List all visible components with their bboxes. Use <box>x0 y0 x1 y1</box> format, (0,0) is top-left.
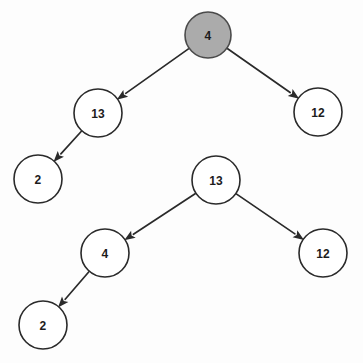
tree-node[interactable]: 4 <box>185 12 231 58</box>
node-circle[interactable] <box>294 88 342 136</box>
tree-edge <box>53 132 81 162</box>
node-circle-highlighted[interactable] <box>185 12 231 58</box>
tree-edge <box>58 272 89 308</box>
node-circle[interactable] <box>74 89 122 137</box>
nodes-layer: 413122134122 <box>14 12 347 349</box>
tree-node[interactable]: 12 <box>294 88 342 136</box>
tree-node[interactable]: 12 <box>299 229 347 277</box>
tree-node[interactable]: 2 <box>14 155 62 203</box>
tree-node[interactable]: 4 <box>81 229 129 277</box>
node-circle[interactable] <box>14 155 62 203</box>
tree-diagram-canvas: 413122134122 <box>0 0 363 363</box>
tree-node[interactable]: 13 <box>192 156 240 204</box>
edge-arrowhead-icon <box>124 231 136 241</box>
tree-edge <box>228 49 300 99</box>
edge-arrowhead-icon <box>288 89 299 99</box>
tree-diagram-svg: 413122134122 <box>0 0 363 363</box>
node-circle[interactable] <box>81 229 129 277</box>
edge-arrowhead-icon <box>117 90 128 100</box>
tree-edge <box>237 194 304 240</box>
tree-node[interactable]: 13 <box>74 89 122 137</box>
tree-edge <box>124 194 195 241</box>
edge-arrowhead-icon <box>293 230 304 240</box>
node-circle[interactable] <box>299 229 347 277</box>
tree-edge <box>117 49 189 100</box>
node-circle[interactable] <box>19 301 67 349</box>
tree-node[interactable]: 2 <box>19 301 67 349</box>
node-circle[interactable] <box>192 156 240 204</box>
